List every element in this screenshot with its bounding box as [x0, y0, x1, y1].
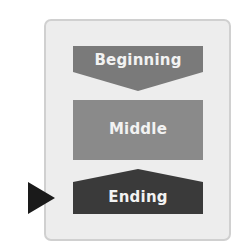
- ending-label: Ending: [73, 188, 203, 206]
- middle-label: Middle: [73, 120, 203, 138]
- beginning-label: Beginning: [73, 51, 203, 69]
- play-triangle-icon: [28, 182, 55, 214]
